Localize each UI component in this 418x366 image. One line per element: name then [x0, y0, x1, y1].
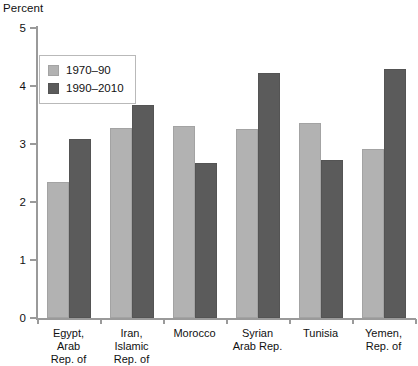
x-tick-mark: [100, 319, 102, 324]
x-axis-category-label-line: Islamic: [94, 340, 169, 353]
y-tick-label: 1: [0, 254, 26, 266]
y-tick-mark: [30, 143, 37, 145]
bar[interactable]: [69, 139, 91, 318]
y-tick-label: 3: [0, 138, 26, 150]
bar[interactable]: [173, 126, 195, 318]
bar[interactable]: [258, 73, 280, 318]
bar-chart: Percent 012345 Egypt,ArabRep. ofIran,Isl…: [0, 0, 418, 366]
x-axis-category-label-line: Yemen,: [346, 327, 418, 340]
x-axis-category-label-line: Rep. of: [94, 353, 169, 366]
bar[interactable]: [47, 182, 69, 318]
x-tick-mark: [226, 319, 228, 324]
y-tick-label: 5: [0, 22, 26, 34]
y-axis-title: Percent: [3, 2, 43, 14]
bar[interactable]: [299, 123, 321, 318]
x-axis-category-label-line: Rep. of: [346, 340, 418, 353]
y-tick-label: 4: [0, 80, 26, 92]
bar[interactable]: [110, 128, 132, 318]
y-tick-mark: [30, 85, 37, 87]
bar[interactable]: [132, 105, 154, 318]
x-tick-mark: [289, 319, 291, 324]
legend-item[interactable]: 1970–90: [48, 61, 124, 79]
bar[interactable]: [362, 149, 384, 318]
y-tick-label: 0: [0, 312, 26, 324]
bar[interactable]: [195, 163, 217, 318]
bar[interactable]: [384, 69, 406, 318]
x-tick-mark: [415, 319, 417, 324]
y-tick-label: 2: [0, 196, 26, 208]
y-tick-mark: [30, 259, 37, 261]
x-tick-mark: [37, 319, 39, 324]
y-tick-mark: [30, 201, 37, 203]
x-tick-mark: [352, 319, 354, 324]
legend-item-label: 1990–2010: [66, 82, 124, 94]
legend-item-label: 1970–90: [66, 64, 111, 76]
legend-item[interactable]: 1990–2010: [48, 79, 124, 97]
x-tick-mark: [163, 319, 165, 324]
y-tick-mark: [30, 317, 37, 319]
x-axis-category-label: Yemen,Rep. of: [346, 327, 418, 353]
y-axis-line: [36, 26, 38, 319]
x-axis-category-label-line: Arab Rep.: [220, 340, 295, 353]
bar[interactable]: [236, 129, 258, 318]
legend-swatch-icon: [48, 65, 59, 76]
bar[interactable]: [321, 160, 343, 318]
y-tick-mark: [30, 27, 37, 29]
chart-legend: 1970–90 1990–2010: [39, 55, 136, 104]
legend-swatch-icon: [48, 83, 59, 94]
